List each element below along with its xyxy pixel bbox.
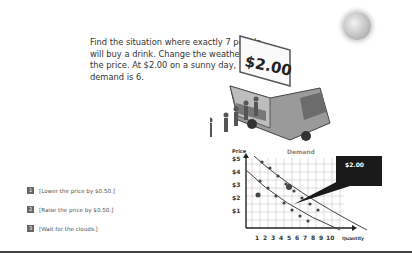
svg-text:3: 3 [271, 234, 275, 241]
svg-text:2: 2 [263, 234, 267, 241]
svg-text:$5: $5 [232, 155, 240, 162]
option-label: [Wait for the clouds.] [39, 226, 98, 232]
svg-text:4: 4 [279, 234, 283, 241]
option-raise-price[interactable]: 2 [Raise the price by $0.50.] [27, 203, 115, 216]
option-label: [Raise the price by $0.50.] [39, 207, 113, 213]
answer-options: 1 [Lower the price by $0.50.] 2 [Raise t… [27, 184, 115, 241]
y-axis-label: Price [232, 148, 247, 154]
chart-title: Demand [287, 148, 315, 155]
option-number-badge: 2 [27, 206, 34, 213]
svg-text:$4: $4 [232, 168, 240, 175]
svg-text:$3: $3 [232, 181, 240, 188]
option-number-badge: 3 [27, 225, 34, 232]
svg-text:7: 7 [303, 234, 307, 241]
svg-text:$1: $1 [232, 207, 240, 214]
bottom-divider [0, 251, 412, 253]
food-truck-illustration: $2.00 [210, 28, 350, 152]
svg-text:6: 6 [295, 234, 299, 241]
option-wait-clouds[interactable]: 3 [Wait for the clouds.] [27, 222, 115, 235]
x-axis-label: Quantity [342, 236, 364, 241]
svg-text:9: 9 [319, 234, 323, 241]
svg-text:$2: $2 [232, 194, 240, 201]
svg-text:10: 10 [326, 234, 334, 241]
svg-text:5: 5 [287, 234, 291, 241]
svg-text:1: 1 [255, 234, 259, 241]
svg-text:8: 8 [311, 234, 315, 241]
option-lower-price[interactable]: 1 [Lower the price by $0.50.] [27, 184, 115, 197]
option-label: [Lower the price by $0.50.] [39, 188, 115, 194]
callout-price: $2.00 [345, 161, 364, 168]
option-number-badge: 1 [27, 187, 34, 194]
demand-chart: Price Demand $5 $4 $3 $2 $1 [232, 146, 412, 250]
